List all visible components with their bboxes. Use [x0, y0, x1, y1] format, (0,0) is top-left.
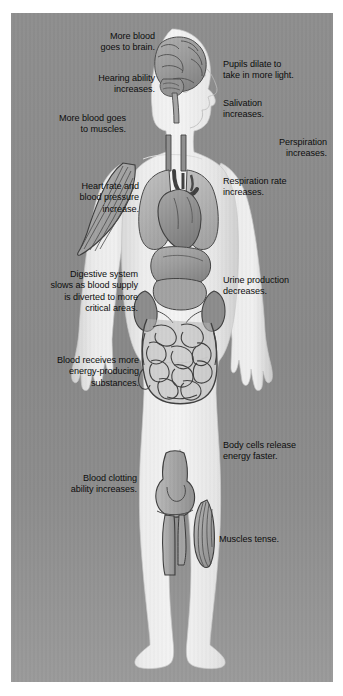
- label-heart-rate: Heart rate and blood pressure increase.: [47, 181, 139, 215]
- label-salivation: Salivation increases.: [223, 98, 319, 121]
- stomach: [153, 278, 206, 310]
- label-cells-energy: Body cells release energy faster.: [223, 440, 327, 463]
- label-perspiration: Perspiration increases.: [229, 137, 327, 160]
- intestines: [139, 319, 217, 404]
- label-muscles-blood: More blood goes to muscles.: [25, 113, 126, 136]
- label-hearing: Hearing ability increases.: [59, 73, 155, 96]
- label-blood-energy: Blood receives more energy-producing sub…: [35, 355, 139, 389]
- label-pupils: Pupils dilate to take in more light.: [223, 59, 327, 82]
- label-muscles-tense: Muscles tense.: [219, 534, 313, 545]
- label-urine: Urine production decreases.: [223, 275, 327, 298]
- calf-muscle: [194, 500, 214, 568]
- label-brain-blood: More blood goes to brain.: [65, 31, 155, 54]
- label-respiration: Respiration rate increases.: [223, 176, 323, 199]
- figure-root: More blood goes to brain. Hearing abilit…: [0, 0, 343, 696]
- label-clotting: Blood clotting ability increases.: [39, 473, 137, 496]
- label-digestion: Digestive system slows as blood supply i…: [33, 269, 138, 315]
- illustration-panel: More blood goes to brain. Hearing abilit…: [11, 13, 333, 682]
